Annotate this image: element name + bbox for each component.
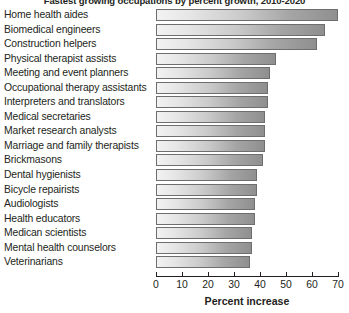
bar bbox=[156, 96, 268, 108]
bar-track bbox=[156, 96, 338, 108]
bar-track bbox=[156, 125, 338, 137]
bar bbox=[156, 111, 265, 123]
bar-row: Medican scientists bbox=[0, 226, 349, 241]
x-axis: Percent increase 010203040506070 bbox=[156, 276, 338, 313]
x-axis-tick bbox=[312, 272, 313, 277]
bar-row: Mental health counselors bbox=[0, 241, 349, 256]
bar bbox=[156, 256, 250, 268]
bar-row: Veterinarians bbox=[0, 255, 349, 270]
bar-row: Medical secretaries bbox=[0, 110, 349, 125]
bar-row: Biomedical engineers bbox=[0, 23, 349, 38]
bar-category-label: Home health aides bbox=[4, 8, 88, 23]
x-axis-title: Percent increase bbox=[96, 295, 349, 307]
bar bbox=[156, 9, 338, 21]
bar-category-label: Medican scientists bbox=[4, 226, 86, 241]
bar-category-label: Occupational therapy assistants bbox=[4, 81, 147, 96]
bar-track bbox=[156, 213, 338, 225]
bar-track bbox=[156, 256, 338, 268]
chart-plot-area: Home health aidesBiomedical engineersCon… bbox=[0, 8, 349, 276]
bar bbox=[156, 125, 265, 137]
chart-title: Fastest growing occupations by percent g… bbox=[0, 0, 349, 6]
bar-category-label: Audiologists bbox=[4, 197, 58, 212]
x-axis-tick bbox=[234, 272, 235, 277]
bar-track bbox=[156, 198, 338, 210]
bar-row: Brickmasons bbox=[0, 153, 349, 168]
bar-category-label: Dental hygienists bbox=[4, 168, 81, 183]
bar-row: Meeting and event planners bbox=[0, 66, 349, 81]
bar-track bbox=[156, 9, 338, 21]
bar-row: Physical therapist assists bbox=[0, 52, 349, 67]
bar bbox=[156, 154, 263, 166]
bar bbox=[156, 82, 268, 94]
bar-category-label: Bicycle repairists bbox=[4, 183, 79, 198]
bar-track bbox=[156, 24, 338, 36]
bar bbox=[156, 227, 252, 239]
bar-row: Home health aides bbox=[0, 8, 349, 23]
bar bbox=[156, 67, 270, 79]
bar-category-label: Biomedical engineers bbox=[4, 23, 100, 38]
x-axis-tick bbox=[208, 272, 209, 277]
bar-chart-figure: Fastest growing occupations by percent g… bbox=[0, 0, 349, 313]
bar bbox=[156, 53, 276, 65]
bar-category-label: Interpreters and translators bbox=[4, 95, 125, 110]
bar bbox=[156, 24, 325, 36]
bar-category-label: Physical therapist assists bbox=[4, 52, 116, 67]
bar bbox=[156, 169, 257, 181]
bar-track bbox=[156, 38, 338, 50]
bar-category-label: Veterinarians bbox=[4, 255, 63, 270]
x-axis-tick bbox=[156, 272, 157, 277]
bar bbox=[156, 198, 255, 210]
bar-track bbox=[156, 82, 338, 94]
bar bbox=[156, 213, 255, 225]
bar bbox=[156, 38, 317, 50]
bar-row: Marriage and family therapists bbox=[0, 139, 349, 154]
bar-track bbox=[156, 242, 338, 254]
bar-row: Market research analysts bbox=[0, 124, 349, 139]
x-axis-tick-label: 70 bbox=[323, 279, 349, 290]
x-axis-line bbox=[156, 276, 338, 277]
bar-category-label: Medical secretaries bbox=[4, 110, 91, 125]
bar-track bbox=[156, 140, 338, 152]
bar-category-label: Construction helpers bbox=[4, 37, 96, 52]
x-axis-tick bbox=[260, 272, 261, 277]
bar-category-label: Market research analysts bbox=[4, 124, 116, 139]
bar-row: Health educators bbox=[0, 212, 349, 227]
bar-row: Interpreters and translators bbox=[0, 95, 349, 110]
bar-track bbox=[156, 184, 338, 196]
bar-track bbox=[156, 227, 338, 239]
bar-category-label: Marriage and family therapists bbox=[4, 139, 139, 154]
x-axis-tick bbox=[182, 272, 183, 277]
bar-category-label: Brickmasons bbox=[4, 153, 62, 168]
bar-row: Bicycle repairists bbox=[0, 183, 349, 198]
x-axis-tick bbox=[286, 272, 287, 277]
bar-track bbox=[156, 169, 338, 181]
bar-track bbox=[156, 53, 338, 65]
bar bbox=[156, 140, 265, 152]
bar-category-label: Health educators bbox=[4, 212, 80, 227]
bar-category-label: Meeting and event planners bbox=[4, 66, 128, 81]
bar-row: Audiologists bbox=[0, 197, 349, 212]
bar-track bbox=[156, 154, 338, 166]
bar-row: Construction helpers bbox=[0, 37, 349, 52]
bar bbox=[156, 242, 252, 254]
bar-category-label: Mental health counselors bbox=[4, 241, 116, 256]
bar-row: Occupational therapy assistants bbox=[0, 81, 349, 96]
bar-row: Dental hygienists bbox=[0, 168, 349, 183]
x-axis-tick bbox=[338, 272, 339, 277]
bar bbox=[156, 184, 257, 196]
bar-track bbox=[156, 67, 338, 79]
bar-track bbox=[156, 111, 338, 123]
